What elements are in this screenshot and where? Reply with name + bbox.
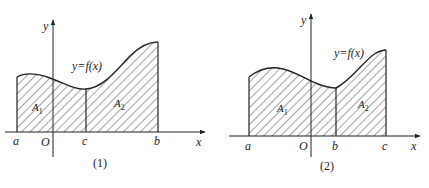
figure-caption: (1)	[93, 156, 107, 170]
x-axis-label: x	[410, 139, 417, 153]
figure-2: y x O a b c y=f(x) A1 A2 (2)	[229, 13, 420, 173]
curve-label: y=f(x)	[71, 59, 102, 73]
y-axis-label: y	[300, 13, 307, 27]
point-label-a: a	[13, 134, 19, 148]
x-axis-label: x	[195, 135, 202, 149]
shaded-area	[249, 50, 386, 136]
shaded-area	[17, 42, 158, 132]
point-label-c: c	[82, 134, 88, 148]
figure-caption: (2)	[320, 159, 334, 173]
point-label-a: a	[245, 139, 251, 153]
y-axis-label: y	[42, 19, 49, 33]
curve-label: y=f(x)	[333, 46, 364, 60]
origin-label: O	[41, 135, 50, 149]
origin-label: O	[299, 139, 308, 153]
area-under-curve-diagram: y x O a c b y=f(x) A1 A2 (1) y x O a b c…	[0, 0, 429, 188]
figure-1: y x O a c b y=f(x) A1 A2 (1)	[5, 19, 205, 170]
point-label-c: c	[382, 139, 388, 153]
point-label-b: b	[332, 139, 338, 153]
point-label-b: b	[154, 134, 160, 148]
